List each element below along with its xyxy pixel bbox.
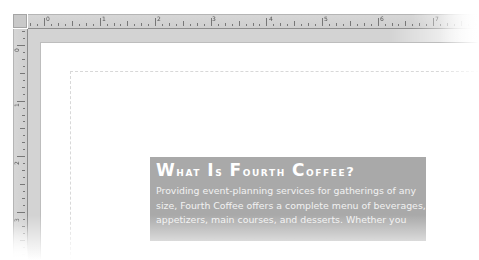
ruler-tick [22,87,25,88]
ruler-tick [93,24,94,26]
heading-initial: F [229,160,242,180]
ruler-tick [225,23,226,26]
heading-initial: C [292,160,306,180]
ruler-tick [315,24,316,26]
ruler-tick [246,24,247,26]
horizontal-ruler[interactable]: 01234567 [28,14,479,29]
ruler-tick [440,24,441,26]
ruler-tick [22,31,25,32]
ruler-tick [22,254,25,255]
ruler-tick [86,23,87,26]
ruler-tick [23,94,25,95]
heading-word: What [156,164,201,179]
ruler-tick [259,24,260,26]
ruler-tick [23,135,25,136]
ruler-tick [405,21,406,26]
ruler-label: 4 [269,15,273,22]
ruler-tick [280,23,281,26]
ruler-tick [426,24,427,26]
ruler-tick [23,38,25,39]
ruler-tick [371,24,372,26]
ruler-tick [107,24,108,26]
ruler-tick [204,24,205,26]
ruler-tick [23,149,25,150]
text-box-what-is-fourth-coffee[interactable]: What Is Fourth Coffee? Providing event-p… [150,157,426,241]
heading-word: Is [207,164,223,179]
ruler-tick [461,21,462,26]
heading-initial: W [156,160,176,180]
ruler-tick [114,23,115,26]
ruler-tick [23,108,25,109]
ruler-tick [273,24,274,26]
ruler-tick [17,45,25,46]
ruler-tick [253,23,254,26]
ruler-tick [232,24,233,26]
ruler-tick [22,142,25,143]
ruler-tick [20,184,25,185]
textbox-body-line: appetizers, main courses, and desserts. … [156,213,420,228]
ruler-tick [454,24,455,26]
ruler-tick [17,101,25,102]
ruler-tick [120,24,121,26]
ruler-tick [419,23,420,26]
ruler-tick [127,21,128,26]
ruler-tick [23,247,25,248]
heading-initial: I [207,160,215,180]
ruler-tick [447,23,448,26]
ruler-tick [17,212,25,213]
ruler-tick [475,23,476,26]
ruler-tick [294,21,295,26]
ruler-tick [266,18,267,26]
vertical-ruler[interactable]: 0123 [13,29,28,260]
ruler-tick [23,163,25,164]
ruler-tick [72,21,73,26]
ruler-tick [23,121,25,122]
ruler-label: 5 [324,15,328,22]
ruler-tick [162,24,163,26]
ruler-tick [197,23,198,26]
ruler-tick [51,24,52,26]
ruler-label: 2 [14,161,20,165]
ruler-tick [468,24,469,26]
ruler-tick [378,18,379,26]
ruler-label: 0 [46,15,50,22]
ruler-tick [392,23,393,26]
textbox-heading: What Is Fourth Coffee? [156,161,420,181]
ruler-tick [23,177,25,178]
ruler-label: 6 [380,15,384,22]
ruler-tick [23,66,25,67]
textbox-body-line: size, Fourth Coffee offers a complete me… [156,199,420,214]
ruler-tick [398,24,399,26]
heading-word: Fourth [229,164,285,179]
ruler-tick [20,73,25,74]
ruler-tick [30,23,31,26]
ruler-tick [134,24,135,26]
ruler-tick [148,24,149,26]
ruler-tick [22,115,25,116]
ruler-tick [364,23,365,26]
ruler-tick [79,24,80,26]
heading-rest: hat [176,164,201,179]
ruler-label: 3 [14,218,20,222]
ruler-tick [301,24,302,26]
ruler-label: 7 [435,15,439,22]
ruler-tick [22,198,25,199]
ruler-label: 1 [14,103,20,107]
ruler-tick [37,24,38,26]
ruler-origin-box[interactable] [13,14,27,28]
ruler-label: 2 [157,15,161,22]
ruler-label: 1 [102,15,106,22]
heading-word: Coffee? [292,164,355,179]
ruler-tick [169,23,170,26]
ruler-label: 0 [14,48,20,52]
ruler-tick [23,219,25,220]
ruler-tick [23,205,25,206]
ruler-tick [17,156,25,157]
ruler-tick [308,23,309,26]
ruler-tick [20,128,25,129]
ruler-tick [239,21,240,26]
heading-rest: ourth [243,164,286,179]
heading-rest: s [215,164,223,179]
ruler-tick [176,24,177,26]
textbox-body-line: Providing event-planning services for ga… [156,184,420,199]
